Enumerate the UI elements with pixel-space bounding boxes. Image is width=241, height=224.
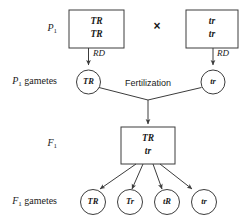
parent-left-allele-line1: TR: [90, 16, 102, 26]
f1-segregation-arrow-1: [100, 164, 136, 189]
meiosis-label-right: RD: [216, 48, 229, 58]
f1-gamete-2-label: Tr: [126, 196, 135, 206]
parent-right-allele-line2: tr: [209, 29, 216, 39]
f1-segregation-arrow-2: [132, 164, 143, 189]
f1-gamete-1-label: TR: [88, 196, 99, 206]
p1-gamete-left-label: TR: [83, 76, 94, 86]
row-label-f1-gametes: F1 gametes: [11, 195, 57, 207]
genetics-cross-diagram: P1 P1 gametes F1 F1 gametes TR TR × tr t…: [0, 0, 241, 224]
f1-segregation-arrow-3: [153, 164, 162, 189]
f1-allele-line1: TR: [142, 133, 154, 143]
parent-left-allele-line2: TR: [90, 29, 102, 39]
cross-symbol: ×: [153, 19, 160, 33]
f1-gamete-3-label: tR: [163, 196, 171, 206]
f1-allele-line2: tr: [145, 146, 152, 156]
row-label-p1: P1: [46, 22, 57, 34]
meiosis-label-left: RD: [92, 48, 105, 58]
row-label-f1: F1: [46, 137, 57, 149]
row-label-p1-gametes: P1 gametes: [11, 75, 57, 87]
f1-gamete-4-label: tr: [201, 196, 207, 206]
p1-gamete-right-label: tr: [210, 76, 216, 86]
diagram-canvas: P1 P1 gametes F1 F1 gametes TR TR × tr t…: [0, 0, 241, 224]
fertilization-line-right: [148, 88, 202, 101]
fertilization-label: Fertilization: [125, 78, 171, 88]
fertilization-line-left: [99, 88, 148, 101]
f1-segregation-arrow-4: [160, 164, 192, 189]
parent-right-allele-line1: tr: [209, 16, 216, 26]
